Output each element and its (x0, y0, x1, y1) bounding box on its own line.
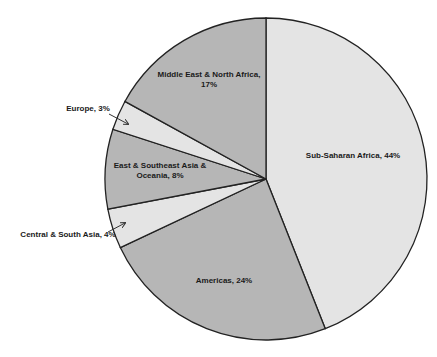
slice-label: Americas, 24% (196, 276, 252, 285)
slice-label: Central & South Asia, 4% (20, 230, 115, 239)
slice-label: Europe, 3% (66, 104, 110, 113)
pie-chart: Sub-Saharan Africa, 44%Americas, 24%Cent… (0, 0, 437, 357)
slice-label: Sub-Saharan Africa, 44% (306, 151, 400, 160)
